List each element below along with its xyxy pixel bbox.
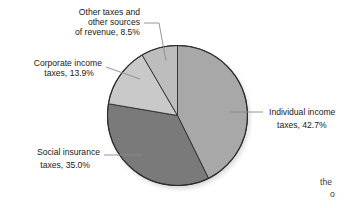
pie-chart-svg: Other taxes and other sources of revenue…: [0, 0, 358, 208]
stray-text-line1: the: [320, 177, 332, 187]
pie-label-individual-income-taxes-line1: Individual income: [269, 107, 336, 117]
pie-label-social-insurance-taxes-line2: taxes, 35.0%: [40, 160, 90, 170]
pie-chart-figure: Other taxes and other sources of revenue…: [0, 0, 358, 208]
pie-label-social-insurance-taxes-line1: Social insurance: [37, 147, 100, 157]
pie-label-other-taxes-line3: of revenue, 8.5%: [75, 27, 140, 37]
pie-label-corporate-income-taxes-line2: taxes, 13.9%: [44, 68, 94, 78]
stray-text-line2: o: [330, 189, 335, 199]
pie-label-other-taxes-line1: Other taxes and: [79, 7, 140, 17]
pie-label-individual-income-taxes-line2: taxes, 42.7%: [277, 120, 327, 130]
pie-label-corporate-income-taxes-line1: Corporate income: [34, 58, 103, 68]
pie-label-other-taxes-line2: other sources: [88, 17, 140, 27]
